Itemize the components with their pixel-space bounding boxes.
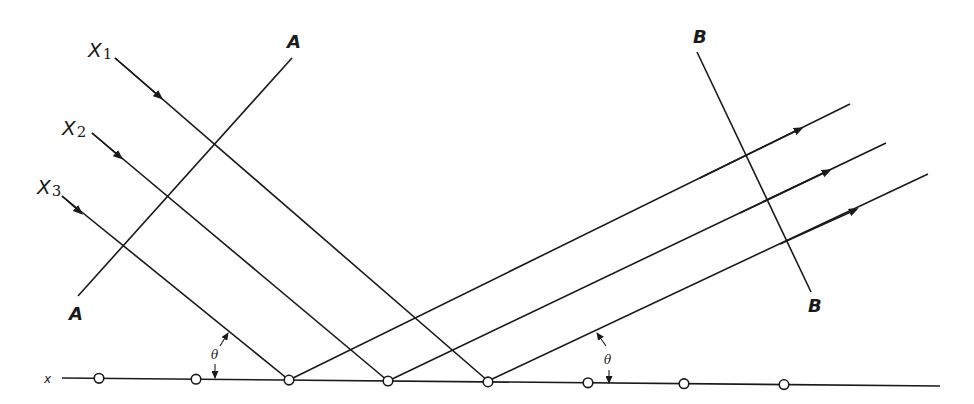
incident-ray-x3 <box>62 196 289 380</box>
reflected-ray-2 <box>388 143 886 381</box>
atom <box>94 374 104 384</box>
label-x2: X2 <box>61 116 86 141</box>
atom <box>779 380 789 390</box>
label-x1: X1 <box>87 38 112 63</box>
atom <box>583 378 593 388</box>
atom <box>284 375 294 385</box>
reflected-ray-3 <box>488 174 928 381</box>
incident-ray-x1 <box>115 58 488 381</box>
label-x3: X3 <box>36 175 61 200</box>
angle-theta-incident: θ <box>211 333 228 378</box>
atom <box>191 374 201 384</box>
atom <box>383 376 393 386</box>
label-b-top: B <box>693 26 707 47</box>
label-a-bottom: A <box>67 303 83 324</box>
atom <box>483 377 493 387</box>
atom <box>679 379 689 389</box>
label-a-top: A <box>285 31 301 52</box>
wavefront-a-line <box>78 58 292 296</box>
label-row-x: x <box>43 372 52 386</box>
reflected-ray-1 <box>289 104 850 380</box>
theta-label: θ <box>211 348 219 362</box>
label-b-bottom: B <box>808 295 822 316</box>
diffraction-diagram: θ θ X1 X2 X3 A A B B x <box>0 0 974 404</box>
theta-label: θ <box>604 353 612 367</box>
angle-theta-reflected: θ <box>597 333 612 383</box>
